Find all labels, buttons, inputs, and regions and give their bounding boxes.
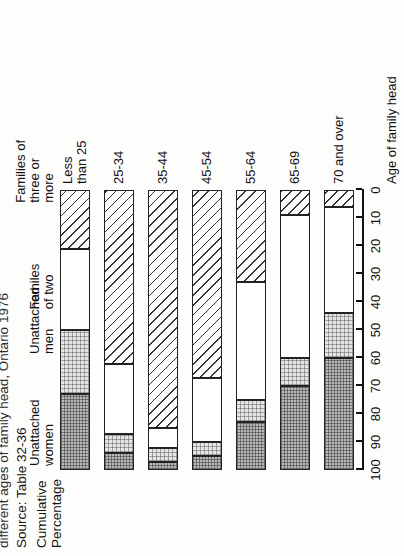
axis-tick-40 [356,301,362,303]
bar-25-34 [104,190,134,470]
segment-unattached-women [148,462,178,470]
segment-unattached-men [280,358,310,386]
bar-70-and-over [324,190,354,470]
segment-unattached-men [192,442,222,456]
segment-families-of-three-or-more [104,190,134,364]
axis-tick-label-0: 0 [368,173,383,207]
segment-families-of-two [148,428,178,448]
x-axis-title: Age of family head [384,76,399,184]
category-label-25-34: 25-34 [112,151,126,184]
category-label-35-44: 35-44 [156,151,170,184]
axis-tick-50 [356,329,362,331]
category-label-65-69: 65-69 [288,151,302,184]
segment-unattached-men [236,400,266,422]
bar-65-69 [280,190,310,470]
plot-area: Less than 2525-3435-4445-5455-6465-6970 … [0,0,404,556]
segment-unattached-men [104,434,134,454]
segment-families-of-three-or-more [148,190,178,428]
y-axis-line [362,189,364,470]
segment-families-of-two [324,207,354,313]
category-label-70-and-over: 70 and over [332,115,346,184]
segment-unattached-women [60,394,90,470]
segment-families-of-two [236,282,266,400]
segment-families-of-two [192,378,222,442]
bar-less-than-25 [60,190,90,470]
segment-unattached-women [104,453,134,470]
segment-unattached-men [148,448,178,462]
legend-callout-women: Unattached women [28,400,56,467]
legend-callout-fam2: Familes of two [28,264,56,310]
axis-tick-0 [356,189,362,191]
bar-55-64 [236,190,266,470]
bar-45-54 [192,190,222,470]
segment-families-of-three-or-more [280,190,310,215]
segment-families-of-two [60,249,90,330]
segment-unattached-women [280,386,310,470]
segment-families-of-two [104,364,134,434]
axis-tick-90 [356,441,362,443]
category-label-55-64: 55-64 [244,151,258,184]
axis-tick-70 [356,385,362,387]
segment-families-of-three-or-more [324,190,354,207]
segment-unattached-women [192,456,222,470]
segment-families-of-three-or-more [60,190,90,249]
segment-families-of-three-or-more [192,190,222,378]
category-label-less-than-25: Less than 25 [61,141,89,184]
axis-tick-60 [356,357,362,359]
stacked-bar-chart: different ages of family head, Ontario 1… [0,0,404,556]
axis-tick-10 [356,217,362,219]
segment-families-of-two [280,215,310,358]
axis-tick-80 [356,413,362,415]
segment-unattached-men [324,313,354,358]
segment-unattached-women [324,358,354,470]
bar-35-44 [148,190,178,470]
segment-unattached-women [236,422,266,470]
axis-tick-20 [356,245,362,247]
axis-tick-100 [356,469,362,471]
category-label-45-54: 45-54 [200,151,214,184]
segment-families-of-three-or-more [236,190,266,282]
legend-callout-fam3: Families of three or more [14,140,56,203]
axis-tick-30 [356,273,362,275]
rotated-figure-stage: different ages of family head, Ontario 1… [0,0,404,556]
segment-unattached-men [60,330,90,394]
